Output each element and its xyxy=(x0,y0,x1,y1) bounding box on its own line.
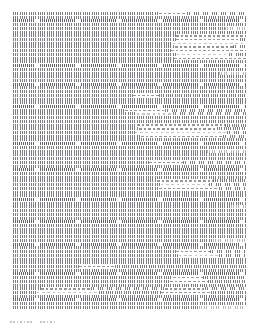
text-run-vertical xyxy=(225,124,246,127)
text-line xyxy=(13,124,246,127)
text-run-horizontal xyxy=(176,35,246,36)
text-run-horizontal xyxy=(141,136,223,137)
text-run-vertical xyxy=(13,191,246,194)
text-run-vertical xyxy=(208,280,246,283)
text-run-vertical xyxy=(13,276,173,279)
text-run-vertical xyxy=(13,213,246,216)
text-line xyxy=(13,176,246,179)
text-line xyxy=(13,127,246,130)
text-run-vertical xyxy=(13,269,246,272)
text-run-vertical xyxy=(223,135,246,138)
text-run-vertical xyxy=(13,187,159,190)
text-line xyxy=(13,23,246,26)
text-run-vertical xyxy=(203,276,246,279)
text-run-horizontal xyxy=(135,132,227,133)
text-line xyxy=(13,261,246,264)
text-run-horizontal xyxy=(161,292,211,293)
text-run-vertical xyxy=(13,34,176,37)
text-run-vertical xyxy=(13,150,207,153)
text-line xyxy=(13,38,246,41)
text-block xyxy=(13,12,246,310)
text-line xyxy=(13,101,246,104)
text-line xyxy=(13,295,246,298)
text-run-horizontal xyxy=(137,124,225,125)
text-run-vertical xyxy=(210,250,246,253)
text-run-horizontal xyxy=(175,46,233,47)
text-line xyxy=(13,42,246,45)
text-run-vertical xyxy=(13,246,246,249)
text-line xyxy=(13,205,246,208)
text-run-vertical xyxy=(13,94,133,97)
text-run-vertical xyxy=(13,124,137,127)
text-run-horizontal xyxy=(173,43,246,44)
text-run-vertical xyxy=(13,172,246,175)
text-run-horizontal xyxy=(41,288,91,289)
text-run-horizontal xyxy=(139,128,217,129)
text-run-vertical xyxy=(13,217,246,220)
text-line xyxy=(13,53,246,56)
text-run-vertical xyxy=(13,90,246,93)
text-line xyxy=(13,83,246,86)
text-run-horizontal xyxy=(177,54,229,55)
text-run-vertical xyxy=(13,138,246,141)
text-run-vertical xyxy=(207,150,246,153)
text-run-vertical xyxy=(13,231,246,234)
text-run-vertical xyxy=(211,291,246,294)
text-run-vertical xyxy=(13,131,135,134)
text-line xyxy=(13,34,246,37)
text-run-vertical xyxy=(209,183,246,186)
text-run-vertical xyxy=(219,72,246,75)
text-line xyxy=(13,86,246,89)
text-line xyxy=(13,187,246,190)
text-line xyxy=(13,246,246,249)
text-run-vertical xyxy=(13,49,171,52)
caption-run xyxy=(40,321,56,323)
text-line xyxy=(13,116,246,119)
text-run-vertical xyxy=(13,287,41,290)
text-line xyxy=(13,150,246,153)
text-run-vertical xyxy=(13,19,246,22)
text-run-vertical xyxy=(13,272,246,275)
text-line xyxy=(13,191,246,194)
text-run-vertical xyxy=(219,187,246,190)
text-run-vertical xyxy=(13,120,246,123)
text-line xyxy=(13,105,246,108)
text-line xyxy=(13,64,246,67)
caption-run xyxy=(10,321,32,323)
text-run-vertical xyxy=(13,261,246,264)
text-run-vertical xyxy=(13,109,125,112)
text-run-vertical xyxy=(233,45,246,48)
text-run-horizontal xyxy=(137,113,173,114)
text-run-vertical xyxy=(187,12,246,15)
text-line xyxy=(13,94,246,97)
text-line xyxy=(13,146,246,149)
text-run-vertical xyxy=(13,79,246,82)
text-line xyxy=(13,49,246,52)
text-run-vertical xyxy=(13,53,177,56)
text-line xyxy=(13,298,246,301)
text-line xyxy=(13,217,246,220)
text-run-vertical xyxy=(159,94,246,97)
text-run-vertical xyxy=(231,205,246,208)
text-run-vertical xyxy=(183,161,246,164)
text-run-vertical xyxy=(13,250,176,253)
text-run-vertical xyxy=(13,239,213,242)
text-run-vertical xyxy=(13,298,246,301)
text-line xyxy=(13,179,246,182)
text-run-vertical xyxy=(225,27,246,30)
text-run-vertical xyxy=(13,284,246,287)
text-line xyxy=(13,60,246,63)
text-run-vertical xyxy=(13,291,37,294)
text-line xyxy=(13,265,246,268)
text-run-vertical xyxy=(13,105,246,108)
text-line xyxy=(13,194,246,197)
text-line xyxy=(13,243,246,246)
text-run-vertical xyxy=(240,38,246,41)
text-run-vertical xyxy=(13,38,176,41)
text-run-vertical xyxy=(13,64,246,67)
text-run-horizontal xyxy=(171,50,246,51)
text-run-vertical xyxy=(13,194,246,197)
text-run-vertical xyxy=(227,131,246,134)
text-run-vertical xyxy=(13,258,246,261)
text-run-vertical xyxy=(13,27,225,30)
